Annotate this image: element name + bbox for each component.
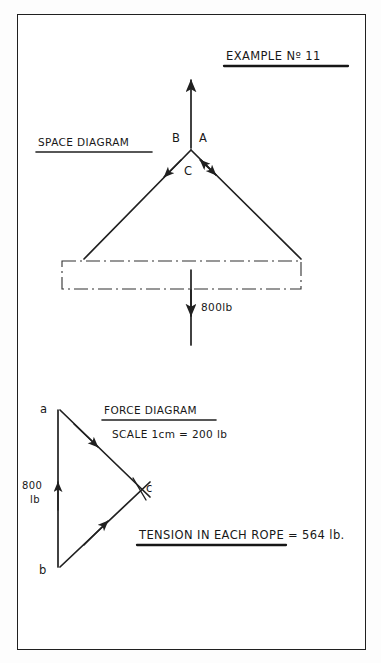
space-diagram-heading: SPACE DIAGRAM: [38, 136, 129, 148]
apex-label-b: B: [172, 131, 180, 145]
force-vector-label-line1: 800: [22, 480, 42, 491]
force-vertex-label-c: c: [146, 481, 153, 495]
apex-label-c: C: [184, 164, 192, 178]
force-vector-bc-arrow: [84, 521, 108, 545]
suspended-body-outline: [62, 261, 301, 289]
result-text: TENSION IN EACH ROPE: [138, 528, 284, 542]
rope-left-arrow: [164, 160, 181, 177]
load-label: 800lb: [201, 301, 233, 313]
force-vertex-label-b: b: [39, 563, 47, 577]
force-vertex-label-a: a: [40, 402, 47, 416]
force-vector-label-line2: lb: [30, 494, 40, 505]
paper-sheet: EXAMPLE Nº 11 SPACE DIAGRAM B A C 800lb …: [0, 0, 381, 663]
rope-right-arrow-inward: [200, 160, 216, 175]
force-diagram-scale: SCALE 1cm = 200 lb: [112, 428, 227, 440]
diagram-canvas: EXAMPLE Nº 11 SPACE DIAGRAM B A C 800lb …: [0, 0, 381, 663]
apex-label-a: A: [199, 131, 207, 145]
page-title: EXAMPLE Nº 11: [226, 49, 321, 63]
force-vector-ac-arrow: [74, 424, 98, 447]
force-diagram-heading: FORCE DIAGRAM: [104, 404, 197, 416]
result-value: = 564 lb.: [288, 528, 345, 542]
